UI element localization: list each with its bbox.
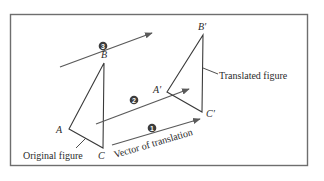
- vertex-label-b-prime: B′: [198, 21, 207, 32]
- badge-1-number: 1: [150, 125, 154, 132]
- vertex-label-c: C: [98, 150, 105, 161]
- badge-2-number: 2: [132, 97, 136, 104]
- vertex-label-a: A: [55, 124, 63, 135]
- original-figure-label: Original figure: [23, 150, 83, 161]
- translated-figure-label: Translated figure: [219, 70, 288, 81]
- vertex-label-a-prime: A′: [152, 84, 162, 95]
- translation-diagram: 3 B A C 2 B′ A′ C′ 1 Vector of translati…: [0, 0, 324, 181]
- vertex-label-b: B: [101, 49, 107, 60]
- vertex-label-c-prime: C′: [206, 108, 216, 119]
